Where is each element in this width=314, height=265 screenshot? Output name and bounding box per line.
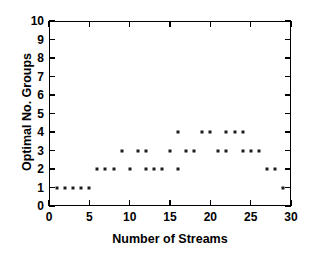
y-tick-label: 9 (37, 33, 44, 47)
y-tick-left (49, 57, 55, 58)
y-tick-left (49, 131, 55, 132)
plot-frame (49, 21, 291, 206)
x-tick-label: 20 (204, 210, 217, 224)
x-tick-top (250, 21, 251, 27)
y-tick-label: 3 (37, 144, 44, 158)
y-tick-right (285, 150, 291, 151)
y-tick-left (49, 113, 55, 114)
y-tick-right (285, 20, 291, 21)
y-tick-label: 8 (37, 51, 44, 65)
x-tick-label: 10 (123, 210, 136, 224)
x-tick-label: 0 (46, 210, 53, 224)
y-tick-left (49, 168, 55, 169)
y-tick-label: 5 (37, 107, 44, 121)
x-tick-top (48, 21, 49, 27)
x-tick-label: 30 (284, 210, 297, 224)
y-tick-left (49, 20, 55, 21)
x-tick-top (89, 21, 90, 27)
y-tick-right (285, 187, 291, 188)
y-axis-title: Optimal No. Groups (20, 22, 34, 202)
x-tick-bottom (89, 200, 90, 206)
x-tick-label: 15 (163, 210, 176, 224)
y-tick-label: 4 (37, 125, 44, 139)
y-tick-right (285, 205, 291, 206)
x-tick-top (169, 21, 170, 27)
x-tick-label: 25 (244, 210, 257, 224)
y-tick-right (285, 113, 291, 114)
x-tick-bottom (129, 200, 130, 206)
y-tick-label: 0 (37, 199, 44, 213)
y-tick-right (285, 94, 291, 95)
x-tick-top (210, 21, 211, 27)
x-tick-top (290, 21, 291, 27)
x-tick-bottom (169, 200, 170, 206)
scatter-chart-figure: 051015202530 012345678910 Number of Stre… (0, 0, 314, 265)
y-tick-left (49, 76, 55, 77)
y-tick-left (49, 94, 55, 95)
y-tick-right (285, 131, 291, 132)
x-tick-top (129, 21, 130, 27)
y-tick-right (285, 57, 291, 58)
y-tick-label: 2 (37, 162, 44, 176)
x-tick-bottom (210, 200, 211, 206)
y-tick-left (49, 39, 55, 40)
y-tick-left (49, 150, 55, 151)
y-tick-label: 1 (37, 181, 44, 195)
y-tick-right (285, 168, 291, 169)
x-tick-bottom (250, 200, 251, 206)
y-tick-label: 7 (37, 70, 44, 84)
y-tick-label: 6 (37, 88, 44, 102)
x-axis-title: Number of Streams (49, 232, 291, 246)
y-tick-left (49, 187, 55, 188)
y-tick-left (49, 205, 55, 206)
x-tick-label: 5 (86, 210, 93, 224)
y-tick-right (285, 76, 291, 77)
y-tick-right (285, 39, 291, 40)
